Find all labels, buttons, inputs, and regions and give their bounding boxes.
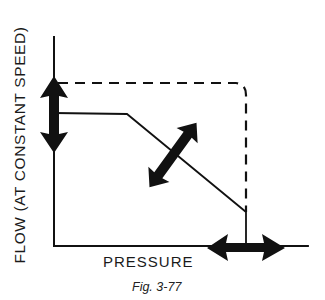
x-axis-label: PRESSURE bbox=[103, 253, 194, 270]
vertical-double-arrow-icon bbox=[40, 76, 68, 153]
dashed-max-flow-curve bbox=[58, 83, 246, 212]
figure-caption: Fig. 3-77 bbox=[132, 280, 181, 294]
y-axis-label: FLOW (AT CONSTANT SPEED) bbox=[11, 26, 29, 263]
diagonal-double-arrow-icon bbox=[139, 115, 207, 195]
